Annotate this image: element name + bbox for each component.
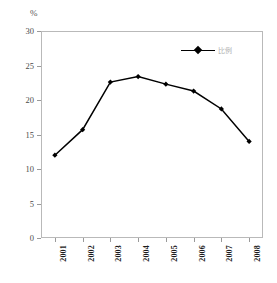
data-point-marker (163, 82, 168, 87)
series-layer (0, 0, 277, 283)
legend-item-label: 比例 (218, 45, 232, 55)
legend-swatch (181, 46, 215, 55)
data-point-marker (136, 74, 141, 79)
line-chart: % 051015202530 2001200220032004200520062… (0, 0, 277, 283)
chart-legend: 比例 (181, 45, 232, 55)
series-line (55, 77, 249, 156)
diamond-marker-icon (194, 45, 202, 53)
